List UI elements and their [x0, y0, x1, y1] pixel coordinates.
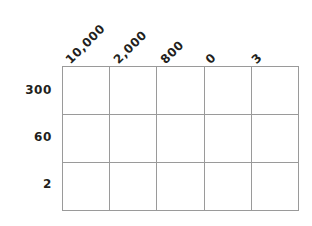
matrix-grid — [62, 66, 299, 211]
worksheet-canvas: 10,000 2,000 800 0 3 300 60 2 — [0, 0, 312, 226]
grid-cell[interactable] — [63, 115, 110, 163]
grid-cell[interactable] — [63, 67, 110, 115]
table-row — [63, 67, 299, 115]
row-header-0: 300 — [0, 66, 57, 113]
grid-cell[interactable] — [110, 67, 157, 115]
grid-cell[interactable] — [204, 115, 251, 163]
grid-cell[interactable] — [63, 163, 110, 211]
row-header-label: 2 — [43, 177, 52, 191]
column-header-label: 2,000 — [112, 29, 149, 66]
grid-cell[interactable] — [251, 115, 298, 163]
grid-cell[interactable] — [204, 67, 251, 115]
column-header-label: 10,000 — [64, 22, 108, 66]
row-header-1: 60 — [0, 113, 57, 160]
row-header-label: 300 — [25, 83, 52, 97]
grid-cell[interactable] — [251, 67, 298, 115]
grid-cell[interactable] — [157, 115, 204, 163]
table-row — [63, 115, 299, 163]
column-header-label: 3 — [250, 51, 265, 66]
row-header-label: 60 — [34, 130, 52, 144]
column-header-label: 800 — [159, 39, 186, 66]
grid-cell[interactable] — [157, 163, 204, 211]
row-header-2: 2 — [0, 160, 57, 207]
grid-cell[interactable] — [157, 67, 204, 115]
grid-cell[interactable] — [110, 115, 157, 163]
grid-cell[interactable] — [251, 163, 298, 211]
column-header-label: 0 — [204, 51, 219, 66]
table-row — [63, 163, 299, 211]
grid-cell[interactable] — [204, 163, 251, 211]
grid-cell[interactable] — [110, 163, 157, 211]
